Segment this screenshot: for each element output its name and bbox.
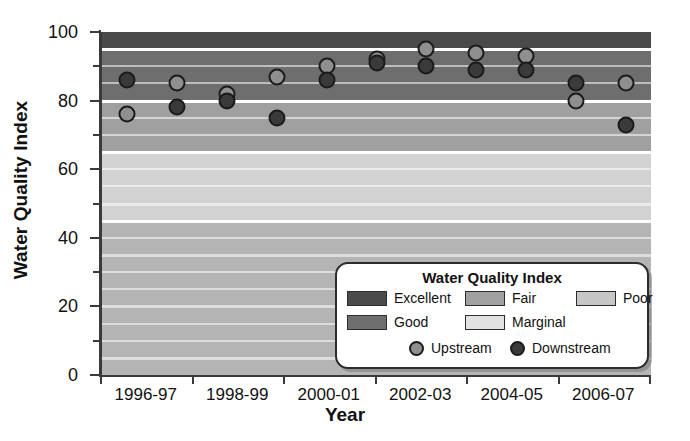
legend-entry-poor: Poor xyxy=(576,290,653,306)
data-point-upstream xyxy=(168,75,185,92)
legend-label: Good xyxy=(394,314,428,330)
gridline xyxy=(102,134,651,136)
x-tick xyxy=(283,375,285,384)
data-point-upstream xyxy=(468,44,485,61)
x-tick-label: 2004-05 xyxy=(481,385,543,405)
x-axis-title: Year xyxy=(0,404,690,426)
x-tick-label: 2000-01 xyxy=(298,385,360,405)
gridline xyxy=(102,185,651,187)
gridline xyxy=(102,117,651,119)
gridline xyxy=(102,254,651,257)
y-tick-major xyxy=(90,100,99,102)
y-tick-label: 40 xyxy=(32,227,78,248)
legend-swatch-good xyxy=(347,315,387,330)
legend-title: Water Quality Index xyxy=(337,269,647,286)
y-tick-major xyxy=(90,237,99,239)
data-point-downstream xyxy=(218,92,235,109)
legend-label: Poor xyxy=(623,290,653,306)
legend-entry-excellent: Excellent xyxy=(347,290,451,306)
x-tick xyxy=(192,375,194,384)
legend-swatch-excellent xyxy=(347,291,387,306)
gridline xyxy=(102,237,651,239)
gridline xyxy=(102,220,651,223)
data-point-upstream xyxy=(618,75,635,92)
gridline xyxy=(102,151,651,154)
y-tick-label: 80 xyxy=(32,90,78,111)
gridline xyxy=(102,203,651,206)
data-point-downstream xyxy=(468,61,485,78)
water-quality-index-chart: Water Quality Index 020406080100 1996-97… xyxy=(0,0,690,441)
quality-band-excellent xyxy=(102,32,651,49)
legend-label: Marginal xyxy=(512,314,566,330)
data-point-downstream xyxy=(118,72,135,89)
legend-box: Water Quality Index ExcellentGoodFairMar… xyxy=(335,262,649,369)
x-tick-label: 2006-07 xyxy=(572,385,634,405)
legend-swatch-fair xyxy=(465,291,505,306)
legend-swatch-marginal xyxy=(465,315,505,330)
y-tick-major xyxy=(90,31,99,33)
data-point-downstream xyxy=(568,75,585,92)
y-axis-tick-labels: 020406080100 xyxy=(32,0,78,441)
y-tick-label: 20 xyxy=(32,296,78,317)
y-tick-label: 0 xyxy=(32,365,78,386)
data-point-downstream xyxy=(318,72,335,89)
data-point-downstream xyxy=(368,54,385,71)
data-point-downstream xyxy=(168,99,185,116)
x-tick xyxy=(558,375,560,384)
legend-marker-upstream xyxy=(409,341,424,356)
y-tick-major xyxy=(90,305,99,307)
x-tick xyxy=(466,375,468,384)
x-tick-label: 1996-97 xyxy=(115,385,177,405)
legend-swatch-poor xyxy=(576,291,616,306)
x-tick xyxy=(649,375,651,384)
y-tick-label: 60 xyxy=(32,159,78,180)
gridline xyxy=(102,168,651,170)
legend-entry-marginal: Marginal xyxy=(465,314,566,330)
data-point-upstream xyxy=(418,41,435,58)
x-tick xyxy=(100,375,102,384)
data-point-downstream xyxy=(268,109,285,126)
data-point-downstream xyxy=(518,61,535,78)
data-point-upstream xyxy=(118,106,135,123)
data-point-downstream xyxy=(418,58,435,75)
x-tick-label: 2002-03 xyxy=(389,385,451,405)
legend-entry-upstream: Upstream xyxy=(409,340,492,356)
legend-label: Upstream xyxy=(431,340,492,356)
y-tick-major xyxy=(90,374,99,376)
legend-label: Fair xyxy=(512,290,536,306)
legend-label: Excellent xyxy=(394,290,451,306)
data-point-upstream xyxy=(568,92,585,109)
legend-entry-downstream: Downstream xyxy=(510,340,611,356)
legend-label: Downstream xyxy=(532,340,611,356)
data-point-upstream xyxy=(268,68,285,85)
data-point-downstream xyxy=(618,116,635,133)
y-axis-title-label: Water Quality Index xyxy=(10,101,32,280)
x-tick-label: 1998-99 xyxy=(206,385,268,405)
legend-entry-fair: Fair xyxy=(465,290,536,306)
y-tick-major xyxy=(90,168,99,170)
x-tick xyxy=(375,375,377,384)
y-tick-label: 100 xyxy=(32,22,78,43)
legend-marker-downstream xyxy=(510,341,525,356)
legend-entry-good: Good xyxy=(347,314,428,330)
